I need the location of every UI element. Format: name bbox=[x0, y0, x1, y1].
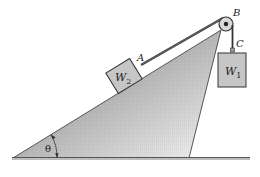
incline-pulley-diagram: θ W2 A B C W1 bbox=[0, 0, 260, 177]
point-b-label: B bbox=[232, 7, 240, 18]
point-a-label: A bbox=[136, 52, 144, 63]
inclined-plane bbox=[13, 30, 221, 158]
block-w2-label-subscript: 2 bbox=[126, 77, 131, 86]
pulley-b bbox=[219, 17, 233, 31]
point-c-label: C bbox=[236, 38, 244, 49]
ground-line bbox=[12, 157, 250, 160]
block-w1-label-subscript: 1 bbox=[236, 71, 241, 80]
angle-label: θ bbox=[45, 143, 51, 154]
